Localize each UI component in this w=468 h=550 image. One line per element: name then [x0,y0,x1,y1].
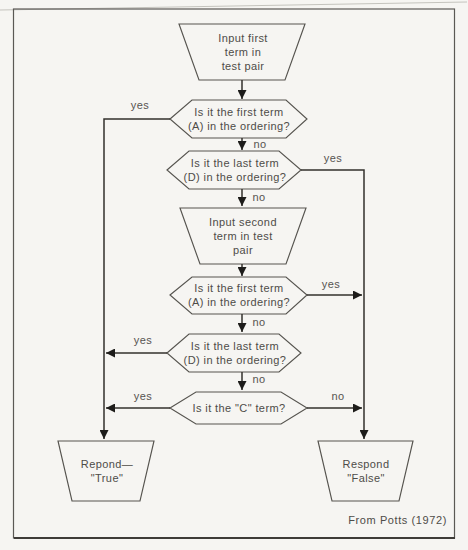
decision-first-term-2-label: Is it the first term (A) in the ordering… [188,281,290,309]
edge-label-d4-yes: yes [134,333,153,347]
input-first-term-label: Input first term in test pair [218,31,268,73]
edge-label-d5-no: no [331,389,344,403]
decision-c-term-label: Is it the "C" term? [192,401,285,415]
edge-label-d3-no: no [252,315,265,329]
edge-label-d4-no: no [252,372,265,386]
edge-label-d1-yes: yes [131,98,150,112]
flowchart-figure: Input first term in test pair Is it the … [0,0,468,550]
respond-false-label: Respond "False" [343,457,390,485]
edge-label-d1-no: no [253,137,266,151]
edge-label-d2-no: no [252,190,265,204]
respond-true-label: Repond— "True" [81,457,133,485]
edge-label-d2-yes: yes [324,151,343,165]
input-second-term-label: Input second term in test pair [209,215,277,257]
decision-last-term-2-label: Is it the last term (D) in the ordering? [184,339,287,367]
edge-label-d3-yes: yes [322,277,341,291]
decision-last-term-1-label: Is it the last term (D) in the ordering? [184,156,287,184]
source-caption: From Potts (1972) [348,514,447,526]
decision-first-term-1-label: Is it the first term (A) in the ordering… [188,105,290,133]
flowchart-art [0,0,468,550]
edge-label-d5-yes: yes [134,389,153,403]
